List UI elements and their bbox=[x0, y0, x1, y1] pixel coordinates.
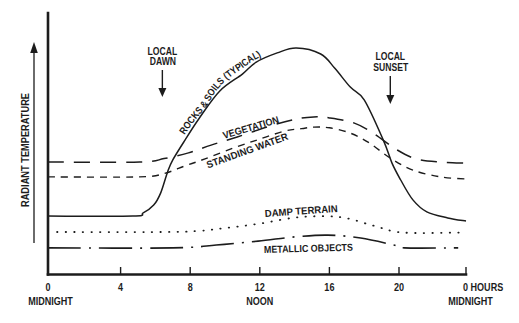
annotation-label: SUNSET bbox=[373, 62, 408, 73]
x-tick-label: 12 bbox=[255, 281, 265, 293]
x-sublabel-midnight: MIDNIGHT bbox=[28, 295, 73, 307]
x-tick-label: 0 bbox=[46, 281, 51, 293]
x-tick-label: 16 bbox=[324, 281, 334, 293]
x-sublabel-midnight: MIDNIGHT bbox=[448, 295, 493, 307]
x-tick-label: 8 bbox=[188, 281, 193, 293]
x-tick-label: 20 bbox=[394, 281, 404, 293]
annotation-label: LOCAL bbox=[376, 51, 406, 62]
series-label-metallic-objects: METALLIC OBJECTS bbox=[264, 242, 354, 255]
x-sublabel-noon: NOON bbox=[246, 295, 273, 307]
radiant-temperature-chart: RADIANT TEMPERATURE 0481216200 HOURS MID… bbox=[0, 0, 519, 323]
annotation-label: DAWN bbox=[150, 56, 176, 67]
x-tick-label: 4 bbox=[118, 281, 123, 293]
y-axis-label: RADIANT TEMPERATURE bbox=[19, 93, 31, 207]
x-tick-label: 0 HOURS bbox=[463, 281, 503, 293]
